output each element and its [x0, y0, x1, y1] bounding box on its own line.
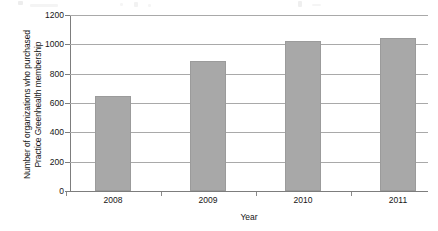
- x-axis-tick-label-2010: 2010: [273, 196, 333, 205]
- y-axis-tick-mark: [65, 103, 70, 104]
- x-axis-tick-mark: [351, 192, 352, 196]
- y-axis-tick-label: 800: [30, 70, 64, 79]
- x-axis-title: Year: [70, 212, 428, 222]
- y-axis-tick-label: 200: [30, 158, 64, 167]
- y-axis-tick-mark: [65, 44, 70, 45]
- x-axis-tick-mark: [256, 192, 257, 196]
- x-axis-tick-mark: [66, 192, 67, 196]
- y-axis-tick-mark: [65, 162, 70, 163]
- scan-artifact: [298, 1, 302, 7]
- x-axis-tick-label-2011: 2011: [368, 196, 428, 205]
- y-axis-tick-label: 600: [30, 99, 64, 108]
- x-axis-tick-label-2008: 2008: [83, 196, 143, 205]
- y-axis-tick-label: 1000: [30, 40, 64, 49]
- bar-chart-figure: Number of organizations who purchased Pr…: [0, 0, 438, 231]
- bar-2009: [190, 61, 226, 191]
- y-axis-tick-label: 1200: [30, 11, 64, 20]
- y-axis-tick-label: 400: [30, 128, 64, 137]
- x-axis-tick-mark: [161, 192, 162, 196]
- y-axis-tick-mark: [65, 132, 70, 133]
- x-axis-tick-label-2009: 2009: [178, 196, 238, 205]
- scan-artifact: [120, 3, 123, 6]
- gridline: [70, 15, 428, 16]
- y-axis-tick-labels: 020040060080010001200: [28, 0, 64, 231]
- scan-artifact: [312, 4, 321, 6]
- plot-area: [70, 15, 428, 191]
- y-axis-tick-label: 0: [30, 187, 64, 196]
- scan-artifact: [148, 4, 151, 7]
- y-axis-tick-mark: [65, 74, 70, 75]
- gridline: [70, 74, 428, 75]
- gridline: [70, 191, 428, 192]
- bar-2011: [380, 38, 416, 191]
- y-axis-tick-mark: [65, 15, 70, 16]
- scan-artifact: [134, 2, 138, 7]
- bar-2008: [95, 96, 131, 191]
- gridline: [70, 44, 428, 45]
- bar-2010: [285, 41, 321, 191]
